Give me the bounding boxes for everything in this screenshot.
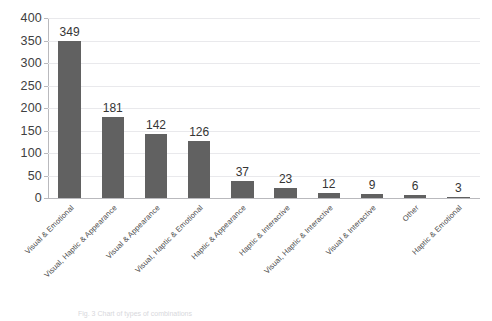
y-axis-tick-label: 350 <box>21 34 42 47</box>
bar-slot: 181 <box>102 18 124 198</box>
y-axis-tick-label: 200 <box>21 102 42 115</box>
bar[interactable] <box>102 117 124 198</box>
bar-value-label: 23 <box>279 173 292 185</box>
y-axis-tick-label: 300 <box>21 57 42 70</box>
y-axis-tick-mark <box>44 153 48 154</box>
y-axis-tick-label: 50 <box>28 169 42 182</box>
bar[interactable] <box>188 141 210 198</box>
plot-area: 349181142126372312963 <box>48 18 480 198</box>
y-axis-tick-mark <box>44 108 48 109</box>
bar-slot: 9 <box>361 18 383 198</box>
bar-value-label: 3 <box>455 182 462 194</box>
bar-slot: 37 <box>231 18 253 198</box>
bar[interactable] <box>447 197 469 199</box>
bar-value-label: 181 <box>103 102 123 114</box>
x-axis-category-labels: Visual & EmotionalVisual, Haptic & Appea… <box>48 200 480 300</box>
bar-series: 349181142126372312963 <box>48 18 480 198</box>
bar-slot: 12 <box>318 18 340 198</box>
bar-slot: 142 <box>145 18 167 198</box>
bar-value-label: 37 <box>236 166 249 178</box>
bar[interactable] <box>404 195 426 198</box>
bar[interactable] <box>145 134 167 198</box>
y-axis-tick-label: 150 <box>21 124 42 137</box>
y-axis-tick-label: 400 <box>21 12 42 25</box>
bar[interactable] <box>318 193 340 198</box>
bar-chart-figure: 400350300250200150100500 349181142126372… <box>0 0 492 321</box>
x-axis-category-label: Other <box>401 204 420 223</box>
gridline <box>48 198 480 199</box>
bar-value-label: 126 <box>189 126 209 138</box>
bar-slot: 126 <box>188 18 210 198</box>
bar-value-label: 349 <box>60 26 80 38</box>
x-axis-category-label: Visual & Interactive <box>325 204 378 257</box>
y-axis-tick-labels: 400350300250200150100500 <box>0 18 42 198</box>
x-axis-category-label: Visual, Haptic & Appearance <box>43 204 118 279</box>
y-axis-tick-label: 100 <box>21 147 42 160</box>
y-axis-tick-mark <box>44 41 48 42</box>
bar-slot: 23 <box>274 18 296 198</box>
x-axis-category-label: Haptic & Emotional <box>411 204 463 256</box>
y-axis-tick-mark <box>44 18 48 19</box>
bar-value-label: 6 <box>412 180 419 192</box>
bar[interactable] <box>58 41 80 198</box>
y-axis-tick-mark <box>44 176 48 177</box>
figure-caption: Fig. 3 Chart of types of combinations <box>78 310 408 318</box>
bar-value-label: 12 <box>322 178 335 190</box>
y-axis-tick-mark <box>44 63 48 64</box>
bar-slot: 3 <box>447 18 469 198</box>
bar-value-label: 9 <box>369 179 376 191</box>
bar[interactable] <box>231 181 253 198</box>
y-axis-tick-mark <box>44 86 48 87</box>
bar[interactable] <box>274 188 296 198</box>
y-axis-tick-label: 250 <box>21 79 42 92</box>
y-axis-tick-mark <box>44 131 48 132</box>
bar-slot: 349 <box>58 18 80 198</box>
bar[interactable] <box>361 194 383 198</box>
y-axis-tick-mark <box>44 198 48 199</box>
bar-slot: 6 <box>404 18 426 198</box>
y-axis-tick-label: 0 <box>35 192 42 205</box>
bar-value-label: 142 <box>146 119 166 131</box>
